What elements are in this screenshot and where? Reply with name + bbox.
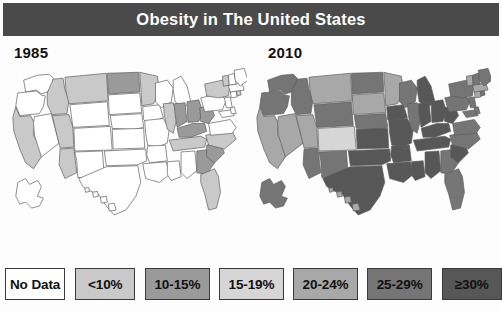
state-va bbox=[453, 120, 481, 136]
state-mt bbox=[65, 73, 108, 103]
state-az bbox=[303, 148, 321, 178]
state-mt bbox=[309, 73, 352, 103]
legend-label: 10-15% bbox=[154, 277, 200, 292]
state-fl bbox=[445, 169, 465, 210]
legend-swatch-2: 10-15% bbox=[145, 268, 209, 300]
state-nd bbox=[351, 72, 383, 94]
state-tn bbox=[169, 136, 206, 151]
state-in bbox=[174, 103, 187, 128]
state-ne bbox=[354, 114, 387, 130]
state-ky bbox=[421, 123, 451, 137]
legend-swatch-3: 15-19% bbox=[219, 268, 283, 300]
state-ks bbox=[112, 128, 144, 149]
state-in bbox=[418, 103, 431, 128]
legend-swatch-1: <10% bbox=[75, 268, 135, 300]
state-or bbox=[260, 91, 290, 116]
state-fl bbox=[201, 169, 221, 210]
state-ak bbox=[260, 179, 288, 209]
state-la bbox=[143, 162, 170, 183]
state-ky bbox=[177, 123, 207, 137]
state-ok bbox=[348, 149, 390, 166]
state-tn bbox=[413, 136, 450, 151]
state-ne bbox=[110, 114, 143, 130]
state-ar bbox=[147, 145, 168, 163]
state-ms bbox=[167, 161, 181, 181]
state-sd bbox=[352, 93, 385, 115]
legend-swatch-6: ≥30% bbox=[442, 268, 502, 300]
state-az bbox=[59, 148, 77, 178]
state-ks bbox=[356, 128, 388, 149]
state-ak bbox=[16, 179, 44, 209]
state-or bbox=[16, 91, 46, 116]
state-sd bbox=[108, 93, 141, 115]
page-title: Obesity in The United States bbox=[136, 10, 365, 29]
legend-label: 20-24% bbox=[303, 277, 349, 292]
state-nj bbox=[224, 97, 232, 108]
year-label-1985: 1985 bbox=[14, 44, 48, 61]
legend-gap bbox=[358, 284, 368, 285]
state-ms bbox=[411, 161, 425, 181]
legend-label: 15-19% bbox=[229, 277, 275, 292]
state-ok bbox=[104, 149, 146, 166]
legend-label: No Data bbox=[10, 277, 60, 292]
map-2010 bbox=[248, 66, 491, 236]
legend-label: 25-29% bbox=[377, 277, 423, 292]
legend-label: ≥30% bbox=[455, 277, 489, 292]
legend-swatch-4: 20-24% bbox=[293, 268, 357, 300]
state-va bbox=[209, 120, 237, 136]
state-la bbox=[387, 162, 414, 183]
state-co bbox=[318, 126, 356, 151]
state-ar bbox=[391, 145, 412, 163]
legend-swatch-5: 25-29% bbox=[367, 268, 431, 300]
state-nd bbox=[107, 72, 139, 94]
legend-gap bbox=[65, 284, 75, 285]
legend-gap bbox=[432, 284, 442, 285]
figure-root: Obesity in The United States 1985 2010 N… bbox=[0, 0, 502, 312]
state-wy bbox=[314, 102, 353, 128]
legend-gap bbox=[135, 284, 145, 285]
state-nj bbox=[468, 97, 476, 108]
legend: No Data<10%10-15%15-19%20-24%25-29%≥30% bbox=[0, 262, 502, 306]
legend-label: <10% bbox=[88, 277, 123, 292]
state-wy bbox=[70, 102, 109, 128]
legend-gap bbox=[284, 284, 294, 285]
year-label-2010: 2010 bbox=[268, 44, 302, 61]
state-al bbox=[425, 151, 441, 179]
legend-gap bbox=[210, 284, 220, 285]
state-al bbox=[181, 151, 197, 179]
legend-swatch-0: No Data bbox=[5, 268, 65, 300]
state-co bbox=[74, 126, 112, 151]
map-1985 bbox=[4, 66, 247, 236]
title-bar: Obesity in The United States bbox=[3, 3, 499, 36]
